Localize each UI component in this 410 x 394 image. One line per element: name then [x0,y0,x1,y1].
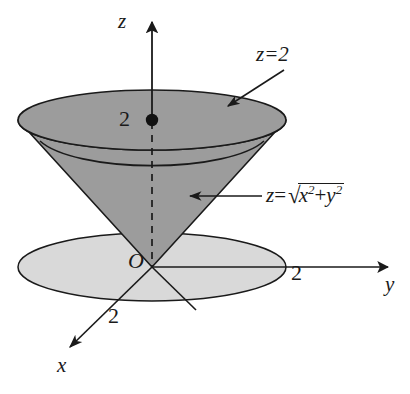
cone-equation-term1-base: x [299,183,308,207]
cone-equation-label: z=√x2+y2 [266,183,344,207]
cone-equation-term2-exponent: 2 [336,182,343,197]
diagram-canvas [0,0,410,394]
z-axis-label: z [118,11,126,32]
cone-equation-radical-group: √x2+y2 [286,183,344,207]
cone-equation-plus: + [315,183,327,207]
cone-equation-term2-base: y [326,183,335,207]
plane-equation-label: z=2 [256,44,289,65]
cone-equation-lhs: z [266,183,274,207]
cone-diagram: z y x O 2 2 2 z=2 z=√x2+y2 [0,0,410,394]
y-axis-tick-label: 2 [291,262,302,284]
z-axis-tick-label: 2 [119,108,130,130]
x-axis-label: x [57,355,66,376]
cone-equation-radicand: x2+y2 [298,183,345,206]
z-equals-2-point [146,114,158,126]
x-axis-tick-label: 2 [108,305,119,327]
y-axis-label: y [385,274,394,295]
cone-equation-equals: = [274,183,286,207]
origin-label: O [128,250,144,272]
